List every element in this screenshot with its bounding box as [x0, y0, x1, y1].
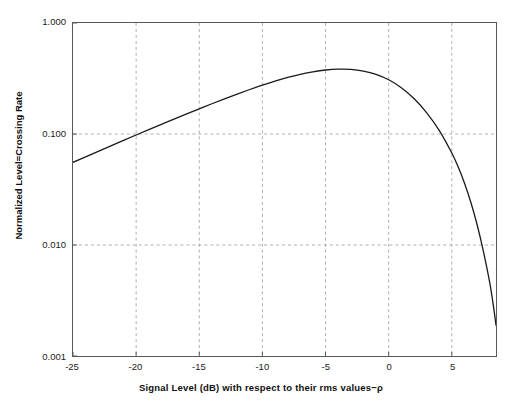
x-tick-label: -25 [65, 362, 79, 372]
x-tick-label: -20 [129, 362, 143, 372]
chart-figure: 1.0000.1000.0100.001 Normalized Level=Cr… [0, 0, 522, 405]
y-axis-title: Normalized Level=Crossing Rate [13, 66, 24, 266]
x-tick-label: 5 [450, 362, 455, 372]
y-tick-label: 0.100 [42, 129, 66, 139]
x-tick-label: 0 [387, 362, 392, 372]
x-axis-tick-labels: -25-20-15-10-505 [0, 362, 522, 378]
y-tick-label: 0.010 [42, 240, 66, 250]
x-tick-label: -5 [321, 362, 329, 372]
data-curve [73, 23, 496, 356]
series-line [73, 69, 496, 325]
x-tick-label: -15 [192, 362, 206, 372]
plot-area [72, 22, 497, 357]
x-tick-label: -10 [255, 362, 269, 372]
y-tick-label: 0.001 [42, 352, 66, 362]
y-tick-label: 1.000 [42, 17, 66, 27]
y-axis-tick-labels: 1.0000.1000.0100.001 [0, 0, 66, 405]
x-axis-title: Signal Level (dB) with respect to their … [0, 382, 522, 393]
